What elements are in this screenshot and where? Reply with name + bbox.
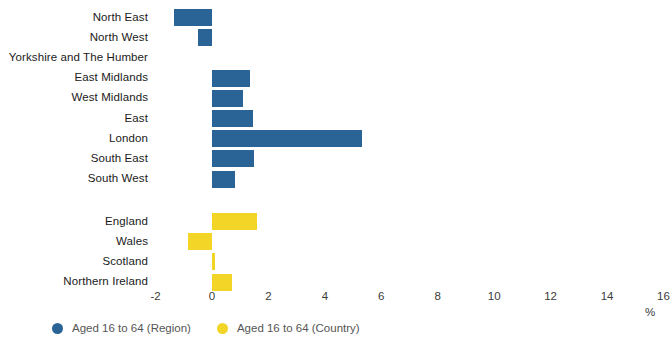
x-axis-unit-label: %	[645, 306, 655, 318]
bar-region	[212, 90, 243, 107]
chart-legend: Aged 16 to 64 (Region)Aged 16 to 64 (Cou…	[52, 322, 386, 334]
bar-region	[212, 171, 235, 188]
x-axis-tick-label: 12	[544, 289, 557, 303]
bar-region	[212, 70, 250, 87]
legend-swatch-country-icon	[217, 323, 228, 334]
x-axis-tick-label: 0	[209, 289, 215, 303]
x-axis-tick-label: 8	[435, 289, 441, 303]
bar-region	[174, 9, 212, 26]
plot-area	[0, 0, 672, 288]
bar-chart: North EastNorth WestYorkshire and The Hu…	[0, 0, 672, 343]
bar-region	[212, 150, 254, 167]
x-axis-tick-label: 2	[265, 289, 271, 303]
x-axis: -20246810121416	[0, 289, 672, 309]
legend-label: Aged 16 to 64 (Country)	[237, 322, 360, 334]
bar-region	[198, 29, 212, 46]
x-axis-tick-label: -2	[150, 289, 160, 303]
bar-region	[212, 110, 253, 127]
x-axis-tick-label: 6	[378, 289, 384, 303]
bar-country	[212, 253, 215, 270]
x-axis-tick-label: 4	[322, 289, 328, 303]
legend-item[interactable]: Aged 16 to 64 (Country)	[217, 322, 360, 334]
legend-item[interactable]: Aged 16 to 64 (Region)	[52, 322, 191, 334]
bar-country	[188, 233, 212, 250]
legend-label: Aged 16 to 64 (Region)	[72, 322, 191, 334]
x-axis-tick-label: 16	[657, 289, 670, 303]
x-axis-tick-label: 10	[488, 289, 501, 303]
legend-swatch-region-icon	[52, 323, 63, 334]
bar-country	[212, 213, 257, 230]
bar-region	[212, 130, 362, 147]
x-axis-tick-label: 14	[601, 289, 614, 303]
